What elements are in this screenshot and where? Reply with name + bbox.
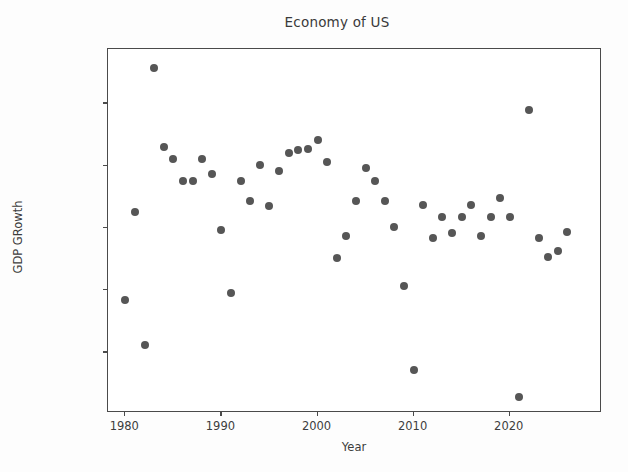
scatter-point (169, 155, 177, 163)
scatter-point (275, 167, 283, 175)
scatter-point (410, 366, 418, 374)
scatter-point (333, 254, 341, 262)
scatter-point (304, 145, 312, 153)
x-tick-label: 1990 (206, 419, 235, 433)
scatter-point (429, 234, 437, 242)
scatter-point (448, 229, 456, 237)
scatter-point (131, 208, 139, 216)
scatter-point (314, 136, 322, 144)
x-tick-label: 2000 (302, 419, 331, 433)
x-tick-mark (317, 412, 318, 416)
x-tick-label: 2020 (494, 419, 523, 433)
scatter-point (246, 197, 254, 205)
scatter-point (285, 149, 293, 157)
scatter-point (544, 253, 552, 261)
scatter-point (179, 177, 187, 185)
scatter-point (256, 161, 264, 169)
scatter-point (189, 177, 197, 185)
scatter-point (227, 289, 235, 297)
scatter-point (217, 226, 225, 234)
scatter-point (438, 213, 446, 221)
scatter-point (390, 223, 398, 231)
figure-canvas: Economy of US GDP GRowth −0.020.000.020.… (0, 0, 628, 472)
y-axis-label: GDP GRowth (11, 201, 25, 274)
scatter-point (487, 213, 495, 221)
scatter-point (371, 177, 379, 185)
scatter-point (515, 393, 523, 401)
scatter-point (381, 197, 389, 205)
scatter-point (265, 202, 273, 210)
plot-area (107, 48, 601, 412)
scatter-point (342, 232, 350, 240)
chart-title: Economy of US (0, 14, 628, 30)
scatter-point (323, 158, 331, 166)
x-tick-mark (124, 412, 125, 416)
scatter-point (141, 341, 149, 349)
x-tick-mark (220, 412, 221, 416)
scatter-point (150, 64, 158, 72)
scatter-point (198, 155, 206, 163)
scatter-point (458, 213, 466, 221)
x-tick-mark (509, 412, 510, 416)
scatter-point (477, 232, 485, 240)
scatter-point (467, 201, 475, 209)
scatter-point (121, 296, 129, 304)
x-tick-label: 2010 (398, 419, 427, 433)
scatter-point (563, 228, 571, 236)
x-axis-label: Year (107, 440, 601, 454)
scatter-point (352, 197, 360, 205)
scatter-point (535, 234, 543, 242)
scatter-point (496, 194, 504, 202)
x-tick-label: 1980 (110, 419, 139, 433)
scatter-series (108, 49, 600, 411)
scatter-point (419, 201, 427, 209)
scatter-point (208, 170, 216, 178)
scatter-point (237, 177, 245, 185)
scatter-point (400, 282, 408, 290)
x-tick-mark (413, 412, 414, 416)
scatter-point (506, 213, 514, 221)
scatter-point (525, 106, 533, 114)
scatter-point (554, 247, 562, 255)
scatter-point (160, 143, 168, 151)
scatter-point (294, 146, 302, 154)
scatter-point (362, 164, 370, 172)
